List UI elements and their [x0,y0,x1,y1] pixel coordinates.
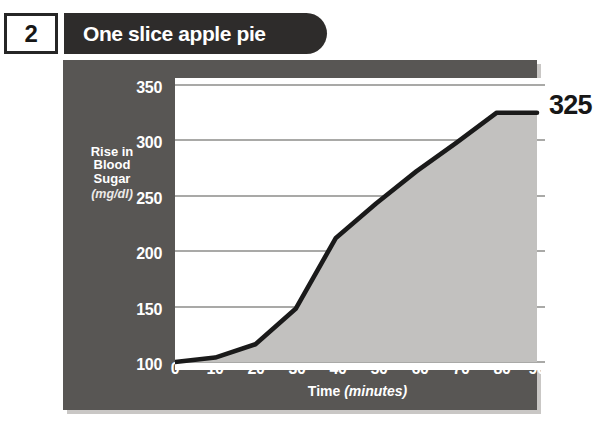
figure-title-bar: One slice apple pie [64,13,327,54]
plot-area [175,78,545,370]
y-tick-150: 150 [100,302,162,318]
y-tick-300: 300 [100,135,162,151]
x-axis-label-text: Time [308,383,340,399]
area-fill [175,113,537,362]
y-tick-100: 100 [100,357,162,373]
y-tick-200: 200 [100,246,162,262]
callout-value: 325 [549,92,592,119]
y-tick-350: 350 [100,80,162,96]
figure-number: 2 [25,22,38,46]
chart-svg [175,78,545,370]
y-tick-250: 250 [100,191,162,207]
figure-number-badge: 2 [4,13,58,54]
x-axis-unit: (minutes) [344,383,407,399]
figure-container: 2 One slice apple pie Rise in Blood Suga… [0,0,596,435]
figure-title: One slice apple pie [64,23,266,44]
x-axis-label: Time (minutes) [175,384,540,398]
